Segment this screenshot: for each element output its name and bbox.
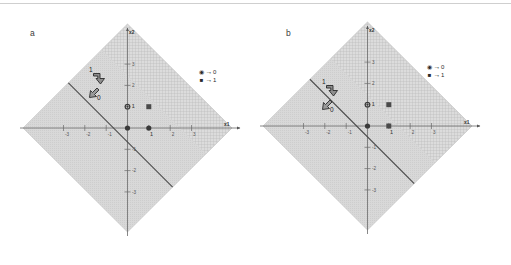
arrow-icon: → bbox=[433, 71, 441, 79]
point-label: 1 bbox=[372, 102, 375, 107]
x-tick-label: 2 bbox=[412, 130, 415, 135]
point-label: 1 bbox=[390, 130, 393, 135]
legend-value-0: 0 bbox=[213, 68, 216, 76]
panel-b: b ◉ → 0 ■ → 1 bbox=[256, 0, 511, 265]
weight-vector-1-label: 1 bbox=[322, 78, 326, 85]
legend-value-0: 0 bbox=[441, 63, 444, 71]
data-point-center bbox=[367, 104, 369, 106]
legend-value-1: 1 bbox=[441, 71, 444, 79]
data-point bbox=[365, 123, 370, 128]
data-point-square bbox=[386, 124, 391, 129]
panel-b-plot: -3 -2 -1 1 2 3 x1 3 2 1 -1 -2 -3 x2 bbox=[256, 0, 511, 265]
circle-icon: ◉ bbox=[426, 63, 433, 71]
panel-b-legend: ◉ → 0 ■ → 1 bbox=[426, 63, 444, 79]
y-tick-label: 2 bbox=[132, 83, 135, 88]
legend-item-square: ■ → 1 bbox=[426, 71, 444, 79]
y-axis-label: x2 bbox=[129, 30, 135, 35]
arrow-icon: → bbox=[205, 76, 213, 84]
arrow-icon: → bbox=[205, 68, 213, 76]
y-tick-label: 2 bbox=[372, 81, 375, 86]
legend-item-circle: ◉ → 0 bbox=[198, 68, 216, 76]
legend-item-circle: ◉ → 0 bbox=[426, 63, 444, 71]
y-tick-label: -3 bbox=[132, 190, 137, 195]
y-tick-label: -2 bbox=[132, 168, 137, 173]
y-tick-label: -3 bbox=[372, 188, 377, 193]
square-icon: ■ bbox=[198, 76, 205, 84]
y-tick-label: -2 bbox=[372, 166, 377, 171]
x-axis-label: x1 bbox=[224, 122, 230, 127]
x-tick-label: -1 bbox=[108, 132, 113, 137]
data-point-square bbox=[386, 102, 391, 107]
x-tick-label: -2 bbox=[86, 132, 91, 137]
square-icon: ■ bbox=[426, 71, 433, 79]
panel-b-label: b bbox=[286, 28, 291, 38]
panel-a-plot: -3 -2 -1 1 2 3 x1 3 2 1 -1 -2 -3 x2 bbox=[0, 0, 255, 265]
x-tick-label: 3 bbox=[433, 130, 436, 135]
panel-a: a ◉ → 0 ■ → 1 bbox=[0, 0, 255, 265]
legend-item-square: ■ → 1 bbox=[198, 76, 216, 84]
x-tick-label: -1 bbox=[348, 130, 353, 135]
weight-vector-0-label: 0 bbox=[97, 94, 101, 101]
data-point-center bbox=[127, 106, 129, 108]
circle-icon: ◉ bbox=[198, 68, 205, 76]
y-tick-label: 3 bbox=[372, 60, 375, 65]
x-tick-label: 3 bbox=[193, 132, 196, 137]
x-tick-label: -3 bbox=[305, 130, 310, 135]
x-tick-label: -2 bbox=[326, 130, 331, 135]
weight-vector-0-label: 0 bbox=[330, 106, 334, 113]
data-point bbox=[146, 125, 151, 130]
x-tick-label: -3 bbox=[65, 132, 70, 137]
x-axis-label: x1 bbox=[464, 120, 470, 125]
x-tick-label: 2 bbox=[172, 132, 175, 137]
point-label: 1 bbox=[132, 104, 135, 109]
point-label: 1 bbox=[150, 132, 153, 137]
weight-vector-1-label: 1 bbox=[89, 66, 93, 73]
arrow-icon: → bbox=[433, 63, 441, 71]
data-point-square bbox=[146, 104, 151, 109]
panel-a-legend: ◉ → 0 ■ → 1 bbox=[198, 68, 216, 84]
figure-container: a ◉ → 0 ■ → 1 bbox=[0, 0, 511, 265]
y-axis-label: x2 bbox=[369, 28, 375, 33]
legend-value-1: 1 bbox=[213, 76, 216, 84]
y-tick-label: 3 bbox=[132, 62, 135, 67]
panel-a-label: a bbox=[30, 28, 35, 38]
data-point bbox=[125, 125, 130, 130]
